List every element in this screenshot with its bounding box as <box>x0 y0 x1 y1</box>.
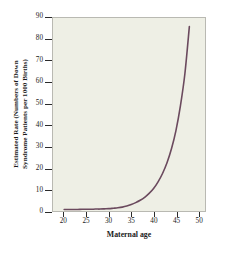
y-tick-label: 50 <box>19 100 43 107</box>
y-tick-label: 0 <box>19 208 43 215</box>
y-tick-label: 70 <box>19 57 43 64</box>
plot-panel <box>52 17 206 212</box>
plot-area <box>53 18 205 211</box>
y-tick-mark <box>45 212 52 213</box>
y-axis-title-line-2: Syndrome Patients per 1000 Births) <box>21 59 30 169</box>
y-tick-mark <box>45 104 52 105</box>
x-tick-label: 30 <box>98 218 120 225</box>
y-tick-mark <box>45 82 52 83</box>
y-tick-label: 80 <box>19 35 43 42</box>
y-axis-title: Estimated Rate (Numbers of Down Syndrome… <box>8 14 34 214</box>
x-axis-title: Maternal age <box>52 230 206 239</box>
x-tick-label: 50 <box>188 218 210 225</box>
data-series-line <box>64 27 189 210</box>
y-tick-label: 90 <box>19 13 43 20</box>
x-tick-label: 25 <box>75 218 97 225</box>
y-axis-title-text: Estimated Rate (Numbers of Down Syndrome… <box>12 59 29 169</box>
y-tick-mark <box>45 39 52 40</box>
y-tick-label: 20 <box>19 165 43 172</box>
chart-figure: Estimated Rate (Numbers of Down Syndrome… <box>0 0 232 256</box>
y-tick-mark <box>45 17 52 18</box>
x-tick-label: 20 <box>52 218 74 225</box>
y-tick-mark <box>45 60 52 61</box>
y-tick-mark <box>45 147 52 148</box>
y-tick-label: 60 <box>19 78 43 85</box>
y-tick-mark <box>45 125 52 126</box>
y-tick-mark <box>45 169 52 170</box>
y-tick-label: 40 <box>19 122 43 129</box>
x-tick-label: 40 <box>143 218 165 225</box>
x-tick-label: 35 <box>120 218 142 225</box>
x-tick-label: 45 <box>166 218 188 225</box>
y-tick-label: 30 <box>19 143 43 150</box>
y-tick-mark <box>45 190 52 191</box>
y-tick-label: 10 <box>19 187 43 194</box>
y-axis-title-line-1: Estimated Rate (Numbers of Down <box>12 59 21 169</box>
